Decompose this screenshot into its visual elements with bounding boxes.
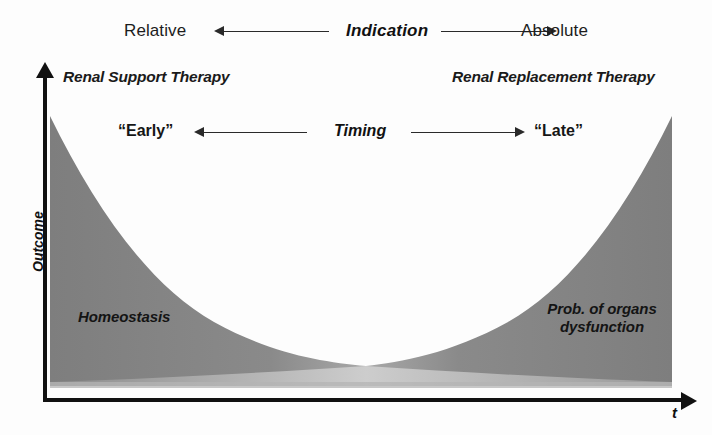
- indication-left-label: Relative: [124, 21, 186, 41]
- timing-left-label: “Early”: [118, 122, 173, 140]
- timing-right-label: “Late”: [534, 122, 583, 140]
- baseline-shade: [50, 382, 672, 388]
- timing-right-arrow-line: [411, 132, 515, 133]
- arrow-left-icon: [194, 127, 204, 137]
- y-axis-arrowhead-icon: [36, 62, 54, 78]
- y-axis-label: Outcome: [30, 211, 46, 272]
- figure-canvas: Outcome t Relative Indication Absolute R…: [0, 0, 712, 435]
- renal-support-therapy-label: Renal Support Therapy: [63, 68, 229, 86]
- organ-dysfunction-area: [366, 116, 672, 386]
- x-axis-line: [43, 398, 683, 402]
- arrow-right-icon: [515, 127, 525, 137]
- indication-left-arrow-line: [223, 31, 329, 32]
- timing-center-label: Timing: [334, 122, 386, 140]
- renal-replacement-therapy-label: Renal Replacement Therapy: [452, 68, 655, 86]
- indication-right-label: Absolute: [521, 21, 588, 41]
- arrow-left-icon: [214, 26, 224, 36]
- organ-dysfunction-annotation-line1: Prob. of organs: [527, 300, 677, 318]
- curves-graphic: [0, 0, 712, 435]
- organ-dysfunction-annotation: Prob. of organs dysfunction: [527, 300, 677, 335]
- timing-left-arrow-line: [203, 132, 307, 133]
- indication-center-label: Indication: [346, 21, 428, 41]
- homeostasis-area: [50, 116, 366, 386]
- homeostasis-annotation: Homeostasis: [78, 308, 170, 326]
- x-axis-arrowhead-icon: [681, 392, 697, 410]
- organ-dysfunction-annotation-line2: dysfunction: [527, 318, 677, 336]
- x-axis-label: t: [672, 404, 677, 421]
